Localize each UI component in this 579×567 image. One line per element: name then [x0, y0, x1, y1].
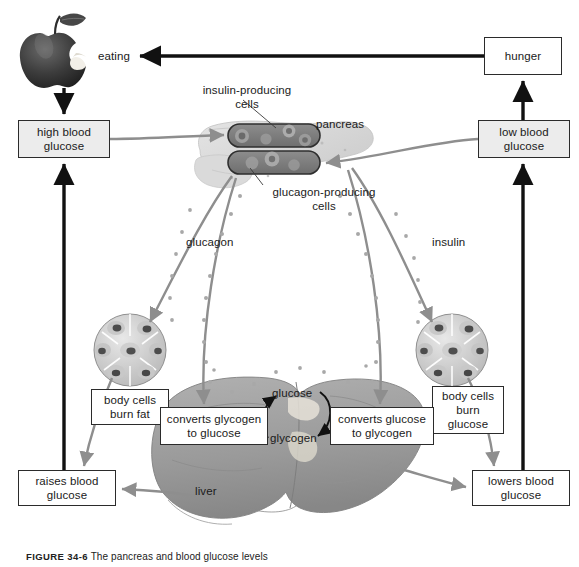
box-label-converts-glucose-to-glycogen: converts glucose to glycogen: [338, 412, 426, 440]
box-converts-glucose-to-glycogen: converts glucose to glycogen: [330, 407, 434, 445]
box-label-hunger: hunger: [505, 49, 541, 63]
box-label-converts-glycogen-to-glucose: converts glycogen to glucose: [167, 412, 261, 440]
apple-illustration: [20, 14, 86, 89]
label-insulin-producing-cells-label: insulin-producing cells: [195, 84, 299, 112]
label-glycogen-label: glycogen: [270, 432, 326, 446]
arrow-liver-to-lowers: [404, 470, 466, 487]
label-glucagon-producing-cells-label: glucagon-producing cells: [268, 186, 380, 214]
label-pancreas-label: pancreas: [316, 118, 374, 132]
body-cells-left-micrograph: [94, 314, 166, 386]
box-raises-blood-glucose: raises blood glucose: [18, 470, 116, 506]
pancreas-illustration: [195, 100, 374, 188]
figure-caption: FIGURE 34-6 The pancreas and blood gluco…: [26, 551, 268, 562]
label-glucagon-label: glucagon: [186, 236, 242, 250]
box-body-cells-burn-fat: body cells burn fat: [91, 389, 169, 425]
box-converts-glycogen-to-glucose: converts glycogen to glucose: [160, 407, 268, 445]
body-cells-right-micrograph: [416, 314, 488, 386]
hormone-particles: [168, 194, 422, 394]
label-glucose-label: glucose: [272, 387, 324, 401]
box-label-high-blood-glucose: high blood glucose: [37, 125, 91, 153]
label-liver-label: liver: [195, 485, 229, 499]
figure-caption-label: FIGURE 34-6: [26, 551, 88, 562]
box-hunger: hunger: [484, 37, 562, 75]
box-label-raises-blood-glucose: raises blood glucose: [35, 474, 98, 502]
box-label-body-cells-burn-glucose: body cells burn glucose: [442, 389, 494, 431]
box-label-lowers-blood-glucose: lowers blood glucose: [488, 474, 554, 502]
box-low-blood-glucose: low blood glucose: [478, 120, 570, 158]
box-label-body-cells-burn-fat: body cells burn fat: [104, 393, 156, 421]
box-label-low-blood-glucose: low blood glucose: [499, 125, 549, 153]
insulin-islet-capsule: [228, 124, 320, 147]
box-lowers-blood-glucose: lowers blood glucose: [472, 470, 570, 506]
box-high-blood-glucose: high blood glucose: [18, 120, 110, 158]
box-body-cells-burn-glucose: body cells burn glucose: [432, 386, 504, 434]
figure-caption-text: The pancreas and blood glucose levels: [91, 551, 268, 562]
figure-diagram: hungerhigh blood glucoselow blood glucos…: [0, 0, 579, 567]
label-insulin-label: insulin: [432, 236, 476, 250]
glucagon-islet-capsule: [228, 151, 320, 174]
label-eating-label: eating: [98, 50, 146, 64]
